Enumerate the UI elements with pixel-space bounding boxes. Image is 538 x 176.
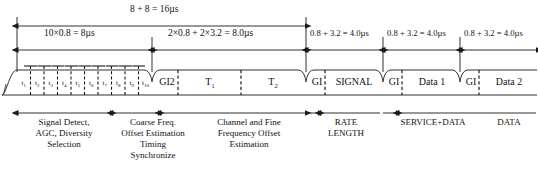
dim-label-short-training: 10×0.8 = 8µs: [44, 28, 95, 38]
short-symbol-t8: t8: [112, 79, 126, 88]
short-symbol-t6: t6: [85, 79, 99, 88]
short-symbol-t2: t2: [31, 79, 45, 88]
dim-label-long-training: 2×0.8 + 2×3.2 = 8.0µs: [168, 28, 253, 38]
annotation-data: DATA: [480, 117, 538, 128]
annotation-signal-detect: Signal Detect, AGC, Diversity Selection: [14, 117, 114, 150]
ofdm-training-structure-diagram: 8 + 8 = 16µs 10×0.8 = 8µs 2×0.8 + 2×3.2 …: [0, 0, 538, 176]
dim-label-data1: 0.8 + 3.2 = 4.0µs: [387, 28, 446, 38]
short-symbol-t5: t5: [71, 79, 85, 88]
dim-label-data2: 0.8 + 3.2 = 4.0µs: [464, 28, 523, 38]
short-symbol-t3: t3: [44, 79, 58, 88]
annotation-channel-fine: Channel and Fine Frequency Offset Estima…: [190, 117, 308, 150]
short-symbol-t1: t1: [17, 79, 31, 88]
symbol-gi-data1: GI: [385, 76, 403, 87]
short-symbol-t10: t10: [139, 79, 153, 88]
short-symbol-t4: t4: [58, 79, 72, 88]
symbol-gi-signal: GI: [308, 76, 326, 87]
symbol-signal: SIGNAL: [327, 76, 381, 87]
symbol-gi2: GI2: [155, 76, 179, 87]
dim-label-total: 8 + 8 = 16µs: [130, 4, 178, 14]
annotation-service-data: SERVICE+DATA: [383, 117, 483, 128]
short-symbol-t7: t7: [98, 79, 112, 88]
symbol-data1: Data 1: [404, 76, 460, 87]
symbol-t2: T2: [243, 76, 303, 89]
annotation-coarse-freq: Coarse Freq. Offset Estimation Timing Sy…: [106, 117, 200, 161]
dim-label-signal: 0.8 + 3.2 = 4.0µs: [310, 28, 369, 38]
symbol-data2: Data 2: [481, 76, 537, 87]
short-symbol-t9: t9: [125, 79, 139, 88]
symbol-gi-data2: GI: [462, 76, 480, 87]
annotation-rate-length: RATE LENGTH: [312, 117, 380, 139]
symbol-t1: T1: [180, 76, 240, 89]
